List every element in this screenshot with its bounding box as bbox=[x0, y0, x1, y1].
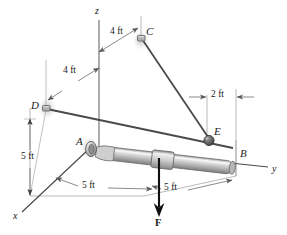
cable-c-to-e bbox=[142, 39, 210, 140]
force-label-f: F bbox=[155, 218, 161, 229]
dimension-label-4ft-upper: 4 ft bbox=[110, 27, 123, 37]
attachment-block-c bbox=[138, 36, 146, 42]
diagram-canvas bbox=[0, 0, 287, 235]
collar-sleeve bbox=[151, 150, 175, 170]
point-label-e: E bbox=[214, 126, 221, 137]
attachment-block-d bbox=[43, 106, 51, 112]
axis-label-y: y bbox=[272, 164, 276, 174]
shaft-a-to-b bbox=[95, 143, 236, 177]
dimension-label-5ft-collar-b: 5 ft bbox=[164, 183, 177, 193]
dimension-label-5ft-vertical: 5 ft bbox=[21, 152, 34, 162]
axis-label-x: x bbox=[13, 211, 17, 221]
bearing-support-a bbox=[86, 141, 97, 156]
statics-diagram-figure: z y x A B C D E 4 ft 4 ft 5 ft 5 ft 5 ft… bbox=[0, 0, 287, 235]
dimension-label-5ft-a-collar: 5 ft bbox=[82, 181, 95, 191]
dimension-label-4ft-lower: 4 ft bbox=[63, 66, 76, 76]
joint-shadows bbox=[37, 29, 150, 161]
point-label-b: B bbox=[240, 148, 247, 159]
ring-at-e bbox=[204, 135, 214, 145]
axis-label-z: z bbox=[95, 6, 99, 16]
point-label-c: C bbox=[146, 26, 153, 37]
point-label-a: A bbox=[76, 136, 83, 147]
dimension-5ft-a-collar bbox=[56, 178, 152, 189]
point-label-d: D bbox=[31, 100, 39, 111]
dimension-label-2ft: 2 ft bbox=[211, 90, 224, 100]
